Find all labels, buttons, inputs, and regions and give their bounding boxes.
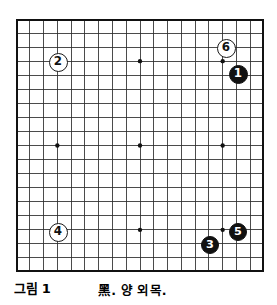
- stone-move-5[interactable]: 5: [229, 223, 247, 241]
- stone-move-4[interactable]: 4: [49, 223, 68, 242]
- go-diagram-figure: 123456 그림 1 黑. 양 외목.: [0, 0, 277, 305]
- stone-move-label: 2: [54, 56, 62, 68]
- stone-move-label: 3: [206, 239, 214, 250]
- stone-move-label: 1: [234, 68, 242, 80]
- go-board[interactable]: 123456: [16, 19, 264, 272]
- stone-move-3[interactable]: 3: [201, 236, 219, 254]
- stone-move-1[interactable]: 1: [229, 65, 248, 84]
- stone-move-label: 4: [54, 226, 62, 238]
- caption-figure-label: 그림 1: [14, 278, 50, 297]
- stone-move-2[interactable]: 2: [49, 53, 68, 72]
- figure-caption: 그림 1 黑. 양 외목.: [0, 277, 277, 303]
- stone-move-6[interactable]: 6: [217, 39, 236, 58]
- stone-move-label: 6: [222, 42, 230, 54]
- stone-move-label: 5: [234, 226, 242, 237]
- caption-description: 黑. 양 외목.: [98, 280, 167, 299]
